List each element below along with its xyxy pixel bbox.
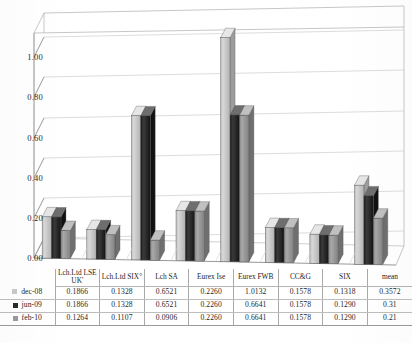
bar-lch-ltd-six--feb-10 (106, 225, 120, 259)
table-cell: 0.6521 (144, 299, 189, 312)
bar-front-face (329, 235, 338, 264)
table-cell: 0.6641 (233, 299, 278, 312)
bar-front-face (364, 196, 373, 265)
bar-side-face (204, 202, 209, 261)
bar-mean-feb-10 (373, 209, 387, 265)
table-header-lch-ltd-lse-uk: Lch.Ltd LSE UK' (55, 269, 100, 286)
table-cell: 0.1328 (100, 286, 145, 299)
legend-label: dec-08 (21, 288, 42, 297)
table-header-mean: mean (367, 269, 412, 286)
table-header-ccg: CC&G (278, 269, 323, 286)
legend-entry-dec-08: dec-08 (0, 286, 55, 299)
y-tick-0: 0.00 (27, 253, 43, 263)
table-body: dec-080.18660.13280.65210.22601.01320.15… (0, 286, 412, 325)
bar-front-face (87, 230, 96, 259)
table-cell: 0.2260 (189, 286, 234, 299)
bar-front-face (195, 211, 204, 261)
bar-front-face (96, 230, 105, 259)
table-cell: 0.6521 (144, 286, 189, 299)
chart-data-table: Lch.Ltd LSE UK' Lch.Ltd SIX° Lch SA Eure… (0, 269, 412, 343)
y-axis-tick-labels: 0.00 0.20 0.40 0.60 0.80 1.00 (0, 0, 46, 285)
table-cell: 0.1328 (100, 299, 145, 312)
bar-chart-figure: 0.00 0.20 0.40 0.60 0.80 1.00 Lch.Ltd LS… (0, 0, 412, 343)
bar-front-face (275, 228, 284, 263)
y-tick-5: 1.00 (27, 52, 43, 62)
bar-front-face (150, 240, 159, 260)
table-cell: 0.1290 (323, 312, 368, 325)
table-header-six: SIX (323, 269, 368, 286)
y-tick-4: 0.80 (27, 92, 43, 102)
legend-label: jun-09 (22, 301, 42, 310)
y-tick-3: 0.60 (27, 133, 43, 143)
y-tick-2: 0.40 (27, 173, 43, 183)
table-cell: 0.2260 (189, 312, 234, 325)
bar-front-face (52, 217, 61, 258)
bar-front-face (141, 116, 150, 260)
bar-front-face (221, 38, 230, 262)
legend-entry-jun-09: jun-09 (0, 299, 55, 312)
legend-swatch-icon (12, 289, 17, 294)
table-cell: 0.1578 (278, 286, 323, 299)
table-cell: 0.0906 (144, 312, 189, 325)
table-header-lch-sa: Lch SA (144, 269, 189, 286)
table-row: dec-080.18660.13280.65210.22601.01320.15… (0, 286, 412, 299)
table-header-eurex-ise: Eurex Ise (189, 269, 234, 286)
table-cell: 0.1866 (55, 299, 100, 312)
bar-cc-g-feb-10 (284, 218, 298, 262)
bar-six-feb-10 (329, 226, 343, 264)
bar-eurex-ise-feb-10 (195, 202, 209, 261)
table-cell: 0.3572 (367, 286, 412, 299)
table-cell: 0.1578 (278, 312, 323, 325)
bar-eurex-fwb-feb-10 (239, 106, 253, 262)
table-row: jun-090.18660.13280.65210.22600.66410.15… (0, 299, 412, 312)
chart-plot-area: 0.00 0.20 0.40 0.60 0.80 1.00 (0, 0, 412, 285)
legend-entry-feb-10: feb-10 (0, 312, 55, 325)
bar-front-face (230, 115, 239, 262)
table-cell: 1.0132 (233, 286, 278, 299)
legend-label: feb-10 (22, 314, 42, 323)
table-cell: 0.1264 (55, 312, 100, 325)
bar-front-face (319, 235, 328, 264)
bar-front-face (131, 116, 140, 260)
bar-front-face (310, 234, 319, 263)
bar-front-face (284, 228, 293, 263)
table-header-row: Lch.Ltd LSE UK' Lch.Ltd SIX° Lch SA Eure… (0, 269, 412, 286)
table-cell: 0.1578 (278, 299, 323, 312)
table-cell: 0.21 (367, 312, 412, 325)
bar-front-face (61, 231, 70, 259)
table-header-legend (0, 269, 55, 286)
table-header-eurex-fwb: Eurex FWB (233, 269, 278, 286)
table-cell: 0.2260 (189, 299, 234, 312)
bar-front-face (265, 228, 274, 263)
bar-front-face (176, 211, 185, 261)
table-cell: 0.31 (367, 299, 412, 312)
bar-side-face (249, 106, 254, 262)
y-tick-1: 0.20 (27, 213, 43, 223)
table-cell: 0.1866 (55, 286, 100, 299)
legend-swatch-icon (13, 316, 18, 321)
table-cell: 0.6641 (233, 312, 278, 325)
bar-lch-ltd-lse-uk--feb-10 (61, 221, 75, 258)
chart-bars-layer (42, 28, 388, 264)
legend-swatch-icon (13, 303, 18, 308)
bar-front-face (185, 211, 194, 261)
table-row: feb-100.12640.11070.09060.22600.66410.15… (0, 312, 412, 325)
bar-front-face (106, 235, 115, 259)
table-header-lch-ltd-six: Lch.Ltd SIX° (100, 269, 145, 286)
table-cell: 0.1290 (323, 299, 368, 312)
table-cell: 0.1107 (100, 312, 145, 325)
bar-front-face (373, 218, 382, 264)
bar-front-face (355, 185, 364, 264)
bar-front-face (239, 115, 248, 262)
table-cell: 0.1318 (323, 286, 368, 299)
chart-plot-svg (0, 0, 412, 285)
